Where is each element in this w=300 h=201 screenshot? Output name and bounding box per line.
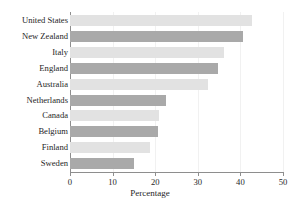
bar-fill	[70, 95, 166, 106]
y-axis-label: Australia	[2, 79, 68, 90]
y-axis-label: Netherlands	[2, 95, 68, 106]
y-axis-label: Sweden	[2, 158, 68, 169]
bar	[70, 142, 150, 153]
bar-fill	[70, 63, 218, 74]
chart-title: Their Own Area After Dark	[0, 0, 300, 2]
x-axis-tick	[70, 172, 71, 176]
bar	[70, 95, 166, 106]
x-axis-tick	[198, 172, 199, 176]
bar	[70, 126, 158, 137]
bar-fill	[70, 126, 158, 137]
x-axis-line	[70, 172, 283, 173]
bar-fill	[70, 158, 134, 169]
bar	[70, 47, 224, 58]
bar-fill	[70, 31, 243, 42]
y-axis-label: Belgium	[2, 126, 68, 137]
x-axis-tick-label: 10	[98, 177, 128, 187]
x-axis-tick	[155, 172, 156, 176]
x-axis-title: Percentage	[0, 188, 300, 198]
bar-fill	[70, 47, 224, 58]
y-axis-label: Italy	[2, 47, 68, 58]
x-axis-tick	[113, 172, 114, 176]
bar-chart: Their Own Area After Dark United StatesN…	[0, 0, 300, 201]
bar	[70, 15, 252, 26]
x-axis-tick	[240, 172, 241, 176]
x-axis-tick-label: 50	[268, 177, 298, 187]
y-axis-label: England	[2, 63, 68, 74]
x-axis-tick	[283, 172, 284, 176]
bar-fill	[70, 79, 208, 90]
y-axis-label: Finland	[2, 142, 68, 153]
y-axis-label: Canada	[2, 110, 68, 121]
bar	[70, 79, 208, 90]
y-axis-label: United States	[2, 15, 68, 26]
bar	[70, 31, 243, 42]
bar-fill	[70, 110, 159, 121]
x-axis-tick-label: 40	[225, 177, 255, 187]
gridline	[283, 12, 284, 172]
bar	[70, 63, 218, 74]
x-axis-tick-label: 20	[140, 177, 170, 187]
bar	[70, 110, 159, 121]
bar-fill	[70, 142, 150, 153]
bar-fill	[70, 15, 252, 26]
x-axis-tick-label: 0	[55, 177, 85, 187]
bar	[70, 158, 134, 169]
y-axis-label: New Zealand	[2, 31, 68, 42]
x-axis-tick-label: 30	[183, 177, 213, 187]
